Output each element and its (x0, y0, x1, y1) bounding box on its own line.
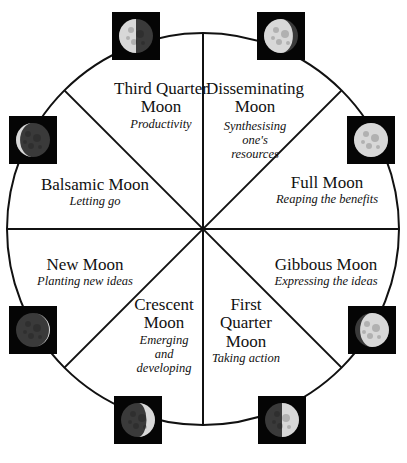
moon-glyph (348, 306, 396, 354)
moon-crater (362, 330, 366, 334)
moon-crater (25, 131, 31, 137)
moon-crater (272, 420, 276, 424)
moon-glyph (257, 12, 305, 60)
phase-meaning: Taking action (204, 351, 288, 365)
phase-meaning: Letting go (30, 194, 160, 208)
moon-lit-area (354, 123, 388, 157)
moon-crater (364, 321, 370, 327)
phase-wheel (0, 0, 407, 463)
moon-crater (130, 411, 136, 417)
phase-name: Moon (124, 314, 204, 332)
moon-crater (282, 414, 290, 422)
moon-crater (38, 335, 42, 339)
moon-crater (276, 39, 282, 45)
moon-crater (141, 41, 145, 45)
moon-crater (371, 134, 379, 142)
moon-crater (361, 140, 365, 144)
moon-crater (126, 36, 130, 40)
phase-name: Disseminating (200, 80, 310, 98)
moon-crater (271, 36, 275, 40)
phase-meaning: resources (200, 147, 310, 161)
moon-glyph (9, 306, 57, 354)
moon-crater (136, 30, 144, 38)
moon-crater (143, 425, 147, 429)
moon-crater (376, 145, 380, 149)
moon-crater (281, 30, 289, 38)
moon-full-icon (347, 116, 395, 164)
moon-crater (273, 27, 279, 33)
label-first-quarter: First Quarter Moon Taking action (204, 296, 288, 365)
moon-balsamic-icon (9, 116, 57, 164)
moon-crater (128, 420, 132, 424)
phase-name: Moon (108, 98, 214, 116)
phase-name: New Moon (20, 256, 150, 274)
moon-glyph (258, 396, 306, 444)
moon-crater (28, 143, 34, 149)
phase-name: Moon (200, 98, 310, 116)
label-disseminating: Disseminating Moon Synthesising one's re… (200, 80, 310, 162)
moon-crater (277, 423, 283, 429)
moon-crater (33, 324, 41, 332)
moon-crater (372, 324, 380, 332)
moon-third-quarter-icon (112, 12, 160, 60)
phase-name: Crescent (124, 296, 204, 314)
moon-crater (287, 425, 291, 429)
label-crescent: Crescent Moon Emerging and developing (124, 296, 204, 376)
moon-first-quarter-icon (258, 396, 306, 444)
moon-crater (133, 423, 139, 429)
moon-crescent-icon (114, 396, 162, 444)
phase-meaning: Synthesising (200, 119, 310, 133)
phase-name: Balsamic Moon (30, 176, 160, 194)
moon-disseminating-icon (257, 12, 305, 60)
phase-meaning: developing (124, 361, 204, 375)
phase-name: First (204, 296, 288, 314)
phase-name: Full Moon (262, 174, 392, 192)
moon-crater (138, 414, 146, 422)
phase-name: Third Quarter (108, 80, 214, 98)
moon-crater (286, 41, 290, 45)
phase-meaning: Reaping the benefits (262, 192, 392, 206)
moon-crater (366, 143, 372, 149)
moon-new-icon (9, 306, 57, 354)
moon-crater (28, 333, 34, 339)
phase-meaning: Productivity (108, 117, 214, 131)
moon-crater (33, 134, 41, 142)
moon-crater (25, 321, 31, 327)
label-full: Full Moon Reaping the benefits (262, 174, 392, 207)
moon-gibbous-icon (348, 306, 396, 354)
phase-name: Moon (204, 333, 288, 351)
moon-crater (38, 145, 42, 149)
moon-crater (363, 131, 369, 137)
phase-meaning: Expressing the ideas (262, 274, 390, 288)
phase-meaning: Planting new ideas (20, 274, 150, 288)
moon-crater (23, 330, 27, 334)
moon-glyph (114, 396, 162, 444)
phase-meaning: and (124, 347, 204, 361)
moon-crater (23, 140, 27, 144)
moon-glyph (347, 116, 395, 164)
moon-crater (128, 27, 134, 33)
label-gibbous: Gibbous Moon Expressing the ideas (262, 256, 390, 289)
moon-glyph (112, 12, 160, 60)
phase-name: Quarter (204, 314, 288, 332)
label-third-quarter: Third Quarter Moon Productivity (108, 80, 214, 131)
moon-crater (131, 39, 137, 45)
moon-crater (367, 333, 373, 339)
label-balsamic: Balsamic Moon Letting go (30, 176, 160, 209)
moon-glyph (9, 116, 57, 164)
moon-crater (377, 335, 381, 339)
moon-crater (274, 411, 280, 417)
phase-meaning: one's (200, 133, 310, 147)
phase-name: Gibbous Moon (262, 256, 390, 274)
label-new: New Moon Planting new ideas (20, 256, 150, 289)
phase-meaning: Emerging (124, 333, 204, 347)
